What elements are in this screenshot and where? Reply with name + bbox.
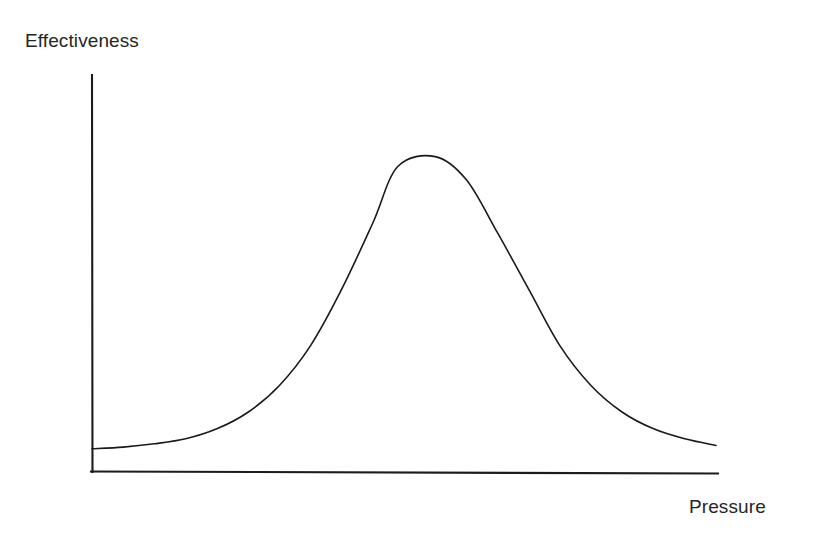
data-series-group	[92, 156, 716, 449]
chart-figure: Effectiveness Pressure	[0, 0, 817, 544]
x-axis-line	[91, 472, 718, 474]
plot-area	[0, 0, 817, 544]
y-axis-line	[92, 75, 93, 472]
effectiveness-curve	[92, 156, 716, 449]
